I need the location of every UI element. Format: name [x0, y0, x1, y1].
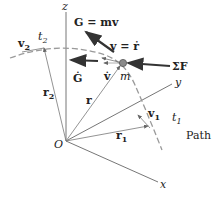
velocity-label: v = ṙ [109, 40, 139, 53]
r1-vector [66, 126, 148, 141]
path-label: Path [186, 129, 211, 142]
t1-label: t1 [172, 111, 182, 126]
y-axis-label: y [174, 76, 182, 89]
Gdot-label: Ġ [73, 71, 82, 85]
particle [119, 59, 126, 66]
v2-label: v2 [17, 37, 30, 52]
mass-label: m [120, 70, 130, 83]
t2-label: t2 [38, 30, 48, 45]
diagram-canvas: z y x O G = mv Ġ v = ṙ v̇ m ΣF v2 t2 r2 … [0, 0, 223, 202]
r-label: r [86, 94, 92, 107]
v1-label: v1 [147, 107, 160, 122]
momentum-diagram: z y x O G = mv Ġ v = ṙ v̇ m ΣF v2 t2 r2 … [0, 0, 223, 202]
r2-label: r2 [43, 86, 54, 101]
x-axis [66, 141, 158, 182]
net-force-vector [128, 63, 170, 66]
r1-label: r1 [116, 129, 127, 144]
origin-label: O [54, 138, 63, 151]
x-axis-label: x [160, 178, 167, 191]
net-force-label: ΣF [172, 60, 188, 73]
vdot-label: v̇ [103, 70, 111, 83]
z-axis-label: z [61, 0, 68, 13]
momentum-label: G = mv [74, 16, 119, 29]
Gdot-vector [71, 60, 98, 61]
